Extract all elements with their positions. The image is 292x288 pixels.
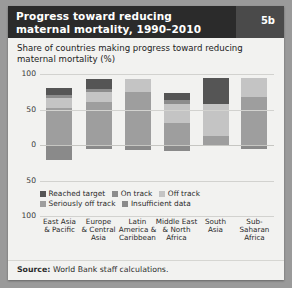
figure-number-badge: 5b (261, 15, 275, 26)
bar-segment (86, 89, 112, 93)
y-axis-tick-label: 50 (14, 106, 36, 114)
legend-label: Seriously off track (49, 199, 116, 208)
x-axis-category-line: & Pacific (38, 226, 82, 234)
bar-segment (86, 79, 112, 89)
figure-subtitle: Share of countries making progress towar… (8, 38, 284, 66)
x-axis-category-label: Sub-SaharanAfrica (232, 218, 276, 242)
gridline (40, 145, 274, 146)
bar-segment (125, 92, 151, 145)
x-axis-category-line: Africa (155, 234, 199, 242)
x-axis-category-label: East Asia& Pacific (38, 218, 82, 234)
bar-segment (164, 100, 190, 104)
gridline (40, 74, 274, 75)
bar-segment (46, 108, 72, 145)
legend-item: On track (112, 189, 152, 199)
bar-segment (164, 123, 190, 145)
legend-label: Off track (168, 189, 200, 198)
bar-segment (203, 78, 229, 104)
screenshot-root: Progress toward reducing maternal mortal… (0, 0, 292, 288)
source-note: Source: World Bank staff calculations. (8, 260, 284, 280)
bar-segment (46, 95, 72, 99)
legend-item: Insufficient data (122, 199, 190, 209)
gridline (40, 181, 274, 182)
x-axis-category-line: Asia (194, 226, 238, 234)
legend-label: Reached target (49, 189, 106, 198)
x-axis-category-label: SouthAsia (194, 218, 238, 234)
bar-segment (46, 88, 72, 94)
bar-segment (164, 104, 190, 123)
figure-number-panel: 5b (236, 6, 284, 38)
chart-legend: Reached targetOn trackOff trackSeriously… (40, 189, 274, 209)
bar-segment (125, 79, 151, 92)
bar-segment (86, 92, 112, 102)
bar-segment-negative (46, 145, 72, 160)
x-axis-category-label: Middle East& NorthAfrica (155, 218, 199, 242)
legend-item: Reached target (40, 189, 105, 199)
legend-swatch-icon (112, 191, 118, 197)
y-axis-tick-label: 100 (14, 212, 36, 220)
legend-item: Seriously off track (40, 199, 115, 209)
bar-segment (164, 93, 190, 100)
legend-swatch-icon (159, 191, 165, 197)
x-axis-category-line: Asia (77, 234, 121, 242)
x-axis-category-label: LatinAmerica &Caribbean (116, 218, 160, 242)
bar-segment (46, 98, 72, 108)
gridline (40, 110, 274, 111)
y-axis-tick-label: 50 (14, 177, 36, 185)
legend-swatch-icon (40, 191, 46, 197)
bar-segment (241, 78, 267, 97)
figure-header: Progress toward reducing maternal mortal… (8, 6, 284, 38)
x-axis-category-line: Africa (232, 234, 276, 242)
legend-label: On track (121, 189, 153, 198)
bar-segment (203, 136, 229, 145)
figure-title-line-1: Progress toward reducing (16, 10, 216, 23)
y-axis-tick-label: 100 (14, 70, 36, 78)
x-axis-category-line: Caribbean (116, 234, 160, 242)
x-axis-category-label: Europe& CentralAsia (77, 218, 121, 242)
source-text: World Bank staff calculations. (53, 265, 169, 274)
source-label: Source: (17, 265, 50, 274)
legend-swatch-icon (122, 201, 128, 207)
legend-item: Off track (159, 189, 200, 199)
bar-segment (241, 97, 267, 145)
figure-card: Progress toward reducing maternal mortal… (8, 6, 284, 280)
figure-title: Progress toward reducing maternal mortal… (16, 10, 216, 36)
legend-swatch-icon (40, 201, 46, 207)
chart-container: 10050050100 Reached targetOn trackOff tr… (14, 68, 278, 264)
x-axis-categories: East Asia& PacificEurope& CentralAsiaLat… (40, 218, 274, 246)
y-axis-tick-label: 0 (14, 141, 36, 149)
x-axis-category-line: Sub-Saharan (232, 218, 276, 234)
figure-title-line-2: maternal mortality, 1990–2010 (16, 23, 216, 36)
legend-label: Insufficient data (131, 199, 191, 208)
